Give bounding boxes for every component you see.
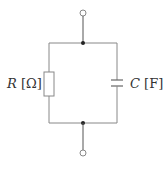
bottom-terminal-icon [80,150,86,156]
resistor-icon [44,72,54,96]
resistor-label: R [Ω] [6,76,42,91]
top-terminal-icon [80,10,86,16]
rc-parallel-circuit: R [Ω] C [F] [0,0,167,172]
capacitor-label: C [F] [130,76,163,91]
top-junction-dot [81,41,85,45]
